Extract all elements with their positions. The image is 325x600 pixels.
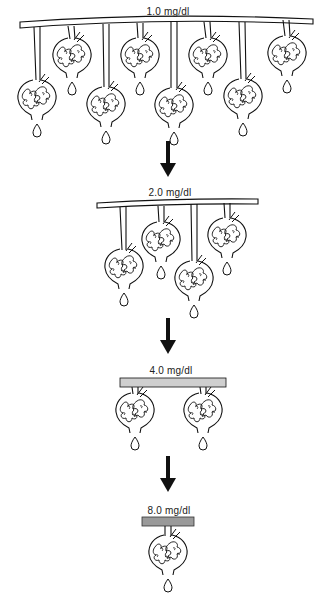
stage-3-label: 4.0 mg/dl <box>150 365 193 376</box>
stage-1 <box>18 16 313 145</box>
blood-vessel <box>142 517 194 526</box>
stage-4 <box>142 517 194 592</box>
stage-1-label: 1.0 mg/dl <box>147 6 190 17</box>
stage-2 <box>97 199 258 318</box>
blood-vessel <box>120 378 226 387</box>
blood-vessel <box>97 199 258 208</box>
arrow-1 <box>160 141 176 177</box>
blood-vessel <box>20 16 313 28</box>
arrow-3 <box>160 456 176 492</box>
arrow-2 <box>160 318 176 354</box>
stage-4-label: 8.0 mg/dl <box>148 505 191 516</box>
stage-3 <box>116 378 226 450</box>
stage-2-label: 2.0 mg/dl <box>149 187 192 198</box>
